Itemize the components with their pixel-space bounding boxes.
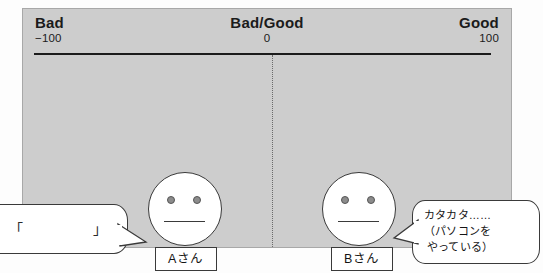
person-a-right-eye-icon [193,196,201,204]
person-b-name-label: Bさん [331,247,393,271]
speech-bubble-person-b: カタカタ…… （パソコンを やっている） [412,200,540,264]
speech-line-2: （パソコンを [424,224,539,240]
person-b-face [322,172,396,246]
center-divider-line [272,55,273,247]
scale-label-center: Bad/Good 0 [23,15,511,44]
person-a-left-eye-icon [167,196,175,204]
person-a-name-label: Aさん [155,247,217,271]
person-b-right-eye-icon [367,196,375,204]
speech-bubble-person-b-content: カタカタ…… （パソコンを やっている） [413,201,539,256]
quote-close-mark: 」 [93,222,107,236]
scale-label-right: Good 100 [459,15,499,44]
scale-center-value: 0 [23,32,511,44]
person-b-mouth-icon [338,221,379,222]
scale-right-value: 100 [459,32,499,44]
speech-bubble-person-b-tail [392,218,420,248]
scale-axis-bar [34,53,491,55]
speech-bubble-person-a-tail [118,224,148,250]
speech-line-1: カタカタ…… [424,208,539,224]
person-a-face [148,172,222,246]
scale-center-word: Bad/Good [23,15,511,31]
person-a-mouth-icon [164,221,205,222]
speech-line-3: やっている） [424,240,539,256]
scale-right-word: Good [459,15,499,31]
quote-open-mark: 「 [9,222,23,236]
speech-bubble-person-a: 「 」 [0,204,128,254]
speech-bubble-person-a-content: 「 」 [0,222,127,238]
person-b-left-eye-icon [341,196,349,204]
